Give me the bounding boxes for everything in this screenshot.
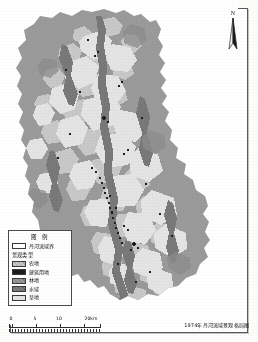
legend-row-forest: 林地 bbox=[12, 277, 68, 285]
legend-label-boundary: 丹河流域界 bbox=[29, 243, 55, 250]
legend-row-cropland: 农地 bbox=[12, 260, 68, 268]
legend-swatch-forest bbox=[12, 278, 26, 284]
legend-row-boundary: 丹河流域界 bbox=[12, 242, 68, 250]
legend-label-grassland: 草地 bbox=[29, 294, 39, 301]
north-arrow: N bbox=[222, 10, 244, 52]
map-caption: 1974年丹河流域景观格局图 bbox=[184, 321, 249, 329]
scale-tick-10: 10 bbox=[56, 316, 62, 321]
legend-swatch-cropland bbox=[12, 261, 26, 267]
legend-label-cropland: 农地 bbox=[29, 260, 39, 267]
legend-row-grassland: 草地 bbox=[12, 294, 68, 302]
scale-tick-0: 0 bbox=[10, 316, 13, 321]
legend-swatch-boundary bbox=[12, 243, 26, 249]
scale-tick-5: 5 bbox=[34, 316, 37, 321]
legend-label-water: 水域 bbox=[29, 286, 39, 293]
legend-row-builtup: 建筑用地 bbox=[12, 268, 68, 276]
legend-subhead: 景观类型 bbox=[12, 251, 68, 259]
legend-label-builtup: 建筑用地 bbox=[29, 269, 49, 276]
legend-swatch-grassland bbox=[12, 295, 26, 301]
scanned-map-page: N 图 例 丹河流域界 景观类型 农地 建筑用地 林地 水域 bbox=[0, 0, 258, 342]
scale-unit-label: 20km bbox=[85, 316, 98, 321]
scale-bar-hatch bbox=[9, 329, 101, 332]
north-label: N bbox=[222, 10, 244, 17]
map-scale-bar: 0 5 10 20km bbox=[9, 316, 101, 332]
legend-label-forest: 林地 bbox=[29, 277, 39, 284]
map-legend: 图 例 丹河流域界 景观类型 农地 建筑用地 林地 水域 草地 bbox=[8, 230, 72, 306]
legend-title: 图 例 bbox=[12, 233, 68, 241]
legend-swatch-builtup bbox=[12, 269, 26, 275]
scale-bar-graphic bbox=[9, 324, 101, 328]
legend-row-water: 水域 bbox=[12, 285, 68, 293]
legend-swatch-water bbox=[12, 286, 26, 292]
north-arrow-icon bbox=[222, 17, 244, 51]
scale-bar-numbers: 0 5 10 20km bbox=[9, 316, 101, 324]
